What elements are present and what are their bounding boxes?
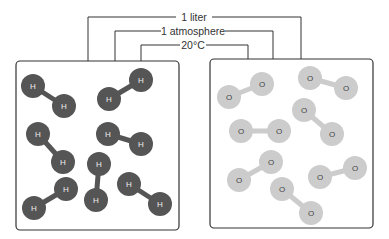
atom-label: O <box>259 80 265 89</box>
atom-label: O <box>329 130 335 139</box>
atom-label: H <box>93 196 99 205</box>
atom-label: O <box>308 209 314 218</box>
temperature-bracket-right <box>206 45 248 60</box>
volume-bracket <box>88 17 176 62</box>
atom-label: H <box>63 185 69 194</box>
atom-label: H <box>96 160 102 169</box>
atom-label: H <box>106 95 112 104</box>
pressure-label: 1 atmosphere <box>161 25 225 37</box>
volume-label: 1 liter <box>181 11 207 23</box>
atom-label: H <box>138 140 144 149</box>
atom-label: H <box>126 180 132 189</box>
atom-label: O <box>276 127 282 136</box>
atom-label: H <box>31 204 37 213</box>
atom-label: H <box>105 130 111 139</box>
atom-label: H <box>138 76 144 85</box>
atom-label: O <box>317 173 323 182</box>
pressure-bracket <box>115 31 161 62</box>
atom-label: H <box>30 82 36 91</box>
gas-comparison-diagram: 1 liter 1 atmosphere 20°C HHHHHHHHHHHHHH… <box>0 0 389 239</box>
atom-label: O <box>236 176 242 185</box>
atom-label: O <box>268 158 274 167</box>
volume-bracket-right <box>212 17 301 60</box>
atom-label: H <box>157 200 163 209</box>
temperature-label: 20°C <box>181 39 205 51</box>
atom-label: H <box>35 130 41 139</box>
atom-label: O <box>301 106 307 115</box>
atom-label: H <box>60 158 66 167</box>
atom-label: O <box>307 74 313 83</box>
atom-label: O <box>238 127 244 136</box>
temperature-bracket <box>141 45 180 62</box>
atom-label: O <box>343 84 349 93</box>
atom-label: O <box>352 164 358 173</box>
atom-label: O <box>226 93 232 102</box>
atom-label: O <box>279 185 285 194</box>
atom-label: H <box>61 102 67 111</box>
